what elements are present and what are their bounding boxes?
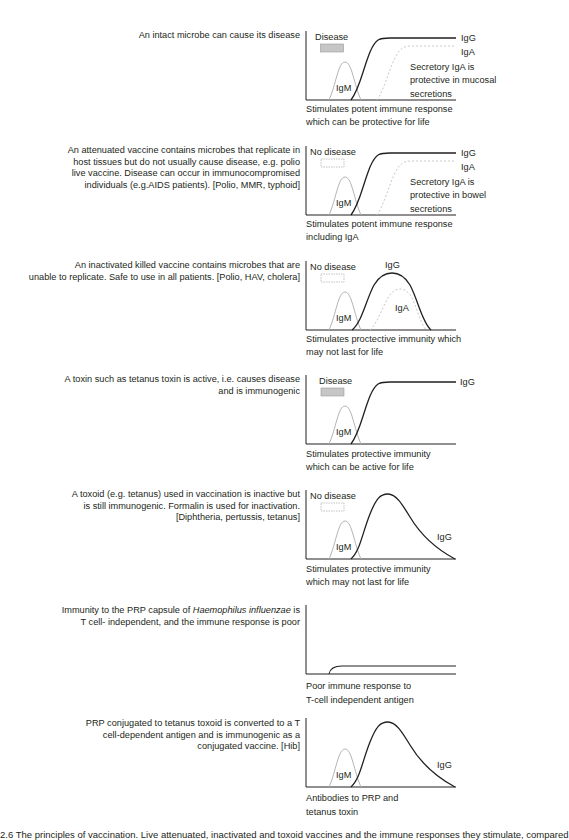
igm-curve — [329, 62, 361, 100]
igg-curve — [352, 273, 431, 330]
description-line: individuals (e.g.AIDS patients). [Polio,… — [0, 180, 300, 192]
no-disease-box — [321, 159, 344, 167]
disease-label: Disease — [315, 32, 348, 42]
disease-label: No disease — [310, 147, 356, 157]
no-disease-box — [321, 274, 344, 282]
panel-description: PRP conjugated to tetanus toxoid is conv… — [0, 718, 300, 753]
panel-caption: Antibodies to PRP and tetanus toxin — [306, 791, 398, 819]
panel-description: A toxoid (e.g. tetanus) used in vaccinat… — [0, 489, 300, 524]
note-line: Secretory IgA is — [410, 62, 475, 72]
panel-description: A toxin such as tetanus toxin is active,… — [0, 374, 300, 397]
no-disease-box — [321, 503, 344, 511]
igg-label: IgG — [460, 377, 475, 387]
disease-bar — [321, 44, 344, 52]
description-line: An attenuated vaccine contains microbes … — [0, 145, 300, 157]
igm-label: IgM — [336, 198, 351, 208]
panel-description: An inactivated killed vaccine contains m… — [0, 260, 300, 283]
description-line: live vaccine. Disease can occur in immun… — [0, 168, 300, 180]
note-line: secretions — [410, 204, 452, 214]
caption-line: Antibodies to PRP and — [306, 791, 398, 805]
iga-label: IgA — [395, 303, 410, 313]
disease-bar — [321, 388, 344, 396]
igg-curve — [351, 494, 455, 559]
antibody-curve-chart: No disease IgM IgG IgA — [300, 230, 538, 340]
igm-curve — [329, 177, 361, 215]
organism-name: Haemophilus influenzae — [193, 605, 291, 615]
description-line: unable to replicate. Safe to use in all … — [0, 272, 300, 284]
antibody-curve-chart — [300, 574, 538, 684]
description-line: conjugated vaccine. [Hib] — [0, 741, 300, 753]
igg-label: IgG — [461, 33, 476, 43]
iga-label: IgA — [461, 47, 476, 57]
caption-line: tetanus toxin — [306, 805, 398, 819]
igm-label: IgM — [336, 770, 351, 780]
panel-description: Immunity to the PRP capsule of Haemophil… — [0, 605, 300, 628]
igg-label: IgG — [437, 760, 452, 770]
igm-label: IgM — [336, 313, 351, 323]
igm-label: IgM — [336, 427, 351, 437]
description-line: T cell- independent, and the immune resp… — [0, 617, 300, 629]
disease-label: No disease — [310, 491, 356, 501]
description-line: An inactivated killed vaccine contains m… — [0, 260, 300, 272]
note-line: protective in mucosal — [410, 75, 496, 85]
igm-label: IgM — [336, 83, 351, 93]
antibody-curve-chart: No disease IgM IgG — [300, 459, 538, 569]
igg-label: IgG — [437, 532, 452, 542]
igg-curve — [351, 382, 456, 444]
description-line: [Diphtheria, pertussis, tetanus] — [0, 512, 300, 524]
igg-curve — [351, 722, 455, 787]
disease-label: No disease — [310, 262, 356, 272]
description-line: PRP conjugated to tetanus toxoid is conv… — [0, 718, 300, 730]
caption-line: Stimulates potent immune response — [306, 103, 453, 116]
antibody-curve-chart: IgM IgG — [300, 687, 538, 797]
description-line: cell-dependent antigen and is immunogeni… — [0, 730, 300, 742]
disease-label: Disease — [319, 376, 352, 386]
note-line: Secretory IgA is — [410, 177, 475, 187]
caption-line: Stimulates potent immune response — [306, 218, 453, 231]
description-line: and is immunogenic — [0, 386, 300, 398]
panel-description: An attenuated vaccine contains microbes … — [0, 145, 300, 191]
description-line: is still immunogenic. Formalin is used f… — [0, 501, 300, 513]
igm-label: IgM — [336, 542, 351, 552]
note-line: secretions — [410, 89, 452, 99]
description-text: Immunity to the PRP capsule of — [62, 605, 193, 615]
description-line: Immunity to the PRP capsule of Haemophil… — [0, 605, 300, 617]
figure-caption: 2.6 The principles of vaccination. Live … — [0, 829, 569, 840]
antibody-curve-chart: Disease IgM IgG — [300, 344, 538, 454]
igg-label: IgG — [461, 148, 476, 158]
description-text: is — [291, 605, 300, 615]
description-line: A toxoid (e.g. tetanus) used in vaccinat… — [0, 489, 300, 501]
igm-curve — [329, 406, 361, 444]
poor-response-curve — [329, 666, 456, 674]
description-line: A toxin such as tetanus toxin is active,… — [0, 374, 300, 386]
description-line: An intact microbe can cause its disease — [0, 30, 300, 42]
description-line: host tissues but do not usually cause di… — [0, 157, 300, 169]
igg-label: IgG — [385, 260, 400, 270]
antibody-curve-chart: No disease IgM IgG IgA Secretory IgA is … — [300, 115, 538, 225]
antibody-curve-chart: Disease IgM IgG IgA Secretory IgA is pro… — [300, 0, 538, 110]
panel-description: An intact microbe can cause its disease — [0, 30, 300, 42]
note-line: protective in bowel — [410, 190, 486, 200]
iga-label: IgA — [461, 162, 476, 172]
